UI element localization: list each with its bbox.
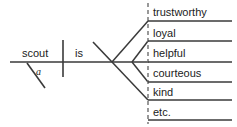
branch-to-loyal xyxy=(132,41,148,62)
complement-label-trustworthy: trustworthy xyxy=(153,7,207,18)
sentence-diagram: scout a is trustworthy loyal helpful cou… xyxy=(0,0,237,127)
subject-label: scout xyxy=(22,48,48,59)
branch-to-courteous xyxy=(132,62,148,82)
verb-label: is xyxy=(75,48,83,59)
article-label: a xyxy=(36,67,41,77)
branch-to-trustworthy xyxy=(112,21,148,62)
branch-to-kind xyxy=(112,62,148,100)
diagram-lines xyxy=(0,0,237,127)
predicate-slant-line xyxy=(93,42,112,62)
complement-label-kind: kind xyxy=(153,87,173,98)
complement-label-helpful: helpful xyxy=(153,48,185,59)
complement-label-loyal: loyal xyxy=(153,28,176,39)
complement-label-courteous: courteous xyxy=(153,68,201,79)
complement-label-etc: etc. xyxy=(153,107,171,118)
